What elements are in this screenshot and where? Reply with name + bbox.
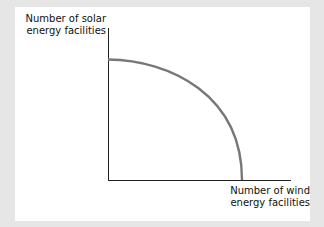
x-axis-label-line-1: Number of wind xyxy=(230,185,310,197)
x-axis-label-line-2: energy facilities xyxy=(230,197,310,209)
y-axis-label-line-1: Number of solar xyxy=(25,13,106,25)
ppf-curve xyxy=(108,60,242,181)
y-axis-label-line-2: energy facilities xyxy=(25,25,106,37)
x-axis-label: Number of wind energy facilities xyxy=(230,185,310,209)
y-axis-label: Number of solar energy facilities xyxy=(25,13,106,37)
